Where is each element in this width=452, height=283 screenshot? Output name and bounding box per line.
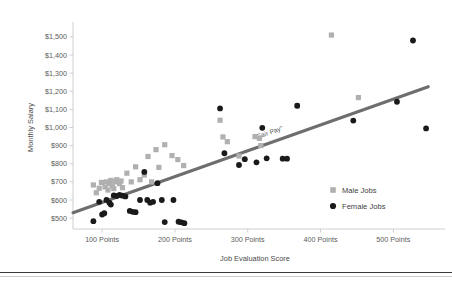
legend-item[interactable]: Male Jobs bbox=[330, 186, 377, 195]
data-point-female bbox=[259, 125, 265, 131]
x-axis-ticks: 100 Points200 Points300 Points400 Points… bbox=[85, 229, 411, 244]
y-tick-label: $600 bbox=[51, 196, 67, 205]
data-point-male bbox=[91, 182, 96, 187]
y-tick-label: $1,200 bbox=[45, 87, 67, 96]
data-point-male bbox=[356, 95, 361, 100]
y-axis-title: Monthly Salary bbox=[26, 103, 35, 152]
data-point-female bbox=[394, 99, 400, 105]
data-point-male bbox=[118, 178, 123, 183]
data-point-male bbox=[97, 186, 102, 191]
y-tick-label: $800 bbox=[51, 159, 67, 168]
data-point-male bbox=[94, 190, 99, 195]
data-point-female bbox=[141, 169, 147, 175]
data-point-male bbox=[145, 154, 150, 159]
data-point-female bbox=[162, 219, 168, 225]
data-point-male bbox=[257, 136, 262, 141]
data-point-male bbox=[217, 118, 222, 123]
data-point-female bbox=[137, 197, 143, 203]
scatter-chart: $500$600$700$800$900$1,000$1,100$1,200$1… bbox=[0, 0, 452, 283]
data-point-female bbox=[294, 103, 300, 109]
chart-canvas: $500$600$700$800$900$1,000$1,100$1,200$1… bbox=[0, 0, 452, 283]
legend-item[interactable]: Female Jobs bbox=[330, 202, 386, 211]
y-tick-label: $900 bbox=[51, 141, 67, 150]
data-point-female bbox=[123, 193, 129, 199]
data-point-female bbox=[96, 199, 102, 205]
legend-label: Female Jobs bbox=[342, 202, 386, 211]
data-point-female bbox=[181, 220, 187, 226]
legend-label: Male Jobs bbox=[342, 186, 377, 195]
y-tick-label: $1,500 bbox=[45, 32, 67, 41]
data-point-male bbox=[120, 185, 125, 190]
x-tick-label: 300 Points bbox=[231, 235, 265, 244]
data-point-female bbox=[133, 209, 139, 215]
y-tick-label: $1,000 bbox=[45, 123, 67, 132]
data-point-male bbox=[137, 177, 142, 182]
data-point-female bbox=[108, 202, 114, 208]
data-point-female bbox=[284, 156, 290, 162]
data-point-female bbox=[150, 199, 156, 205]
data-point-female bbox=[159, 197, 165, 203]
y-tick-label: $1,400 bbox=[45, 51, 67, 60]
data-point-male bbox=[175, 157, 180, 162]
data-point-female bbox=[155, 180, 161, 186]
data-point-male bbox=[258, 143, 263, 148]
data-point-male bbox=[169, 153, 174, 158]
square-marker-icon bbox=[330, 187, 336, 193]
y-tick-label: $500 bbox=[51, 214, 67, 223]
data-point-female bbox=[242, 156, 248, 162]
data-point-female bbox=[222, 150, 228, 156]
data-point-male bbox=[162, 142, 167, 147]
x-tick-label: 500 Points bbox=[376, 235, 410, 244]
data-point-male bbox=[149, 179, 154, 184]
data-point-male bbox=[153, 147, 158, 152]
data-point-female bbox=[217, 106, 223, 112]
data-point-male bbox=[225, 139, 230, 144]
y-axis-ticks: $500$600$700$800$900$1,000$1,100$1,200$1… bbox=[45, 32, 73, 222]
data-point-male bbox=[99, 180, 104, 185]
data-point-female bbox=[423, 126, 429, 132]
data-point-male bbox=[156, 165, 161, 170]
data-point-male bbox=[111, 186, 116, 191]
x-axis-title: Job Evaluation Score bbox=[220, 254, 290, 263]
data-point-female bbox=[410, 38, 416, 44]
data-point-female bbox=[90, 218, 96, 224]
x-tick-label: 100 Points bbox=[85, 235, 119, 244]
x-tick-label: 400 Points bbox=[304, 235, 338, 244]
data-point-male bbox=[329, 32, 334, 37]
series-male-jobs bbox=[91, 32, 361, 195]
data-point-male bbox=[129, 179, 134, 184]
axes-group bbox=[73, 22, 445, 229]
legend: Male JobsFemale Jobs bbox=[330, 186, 386, 211]
data-point-male bbox=[236, 153, 241, 158]
data-point-female bbox=[254, 159, 260, 165]
data-point-female bbox=[236, 162, 242, 168]
data-point-male bbox=[133, 164, 138, 169]
data-point-male bbox=[181, 163, 186, 168]
y-tick-label: $1,300 bbox=[45, 69, 67, 78]
y-tick-label: $700 bbox=[51, 177, 67, 186]
circle-marker-icon bbox=[330, 203, 336, 209]
data-point-male bbox=[220, 134, 225, 139]
y-tick-label: $1,100 bbox=[45, 105, 67, 114]
data-point-male bbox=[124, 171, 129, 176]
x-tick-label: 200 Points bbox=[158, 235, 192, 244]
data-point-female bbox=[171, 197, 177, 203]
data-point-female bbox=[350, 118, 356, 124]
data-point-female bbox=[264, 155, 270, 161]
data-point-female bbox=[101, 210, 107, 216]
